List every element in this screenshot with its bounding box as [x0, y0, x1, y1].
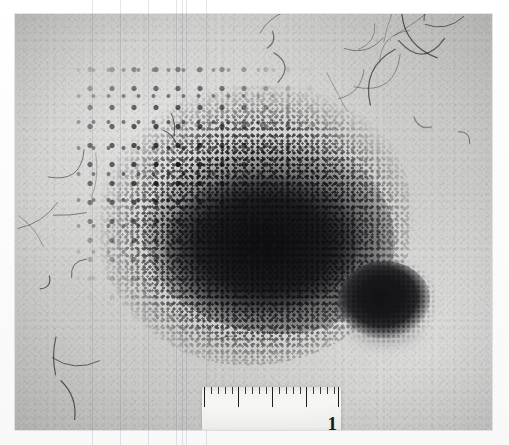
- ruler-shading: [202, 387, 341, 430]
- peripheral-macules: [75, 54, 375, 364]
- satellite-nodule-edge: [331, 254, 439, 348]
- screenshot-root: 1: [0, 0, 509, 445]
- measuring-ruler: 1: [202, 387, 341, 430]
- ruler-label-1: 1: [328, 414, 338, 430]
- clinical-photograph: 1: [15, 14, 492, 430]
